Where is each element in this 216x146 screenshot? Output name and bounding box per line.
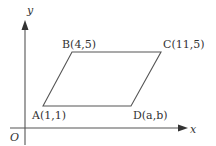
x-axis bbox=[10, 125, 188, 132]
origin-label: O bbox=[10, 131, 19, 144]
y-axis-label: y bbox=[26, 4, 34, 17]
parallelogram-ABCD bbox=[43, 52, 161, 106]
point-A-label: A(1,1) bbox=[31, 109, 66, 122]
point-D-label: D(a,b) bbox=[133, 109, 168, 122]
y-axis bbox=[22, 20, 29, 145]
point-B-label: B(4,5) bbox=[62, 38, 96, 51]
y-axis-arrow-icon bbox=[22, 20, 29, 30]
parallelogram-diagram: y x O B(4,5) C(11,5) A(1,1) D(a,b) bbox=[0, 0, 216, 146]
x-axis-label: x bbox=[190, 123, 197, 136]
x-axis-arrow-icon bbox=[178, 125, 188, 132]
point-C-label: C(11,5) bbox=[163, 38, 205, 51]
